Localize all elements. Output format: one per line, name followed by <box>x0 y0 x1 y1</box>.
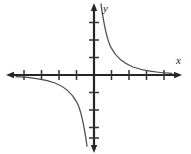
y-axis-label: y <box>102 2 108 14</box>
graph-figure: x y <box>0 0 191 154</box>
coordinate-plane-svg: x y <box>0 0 191 154</box>
x-axis-label: x <box>175 54 181 66</box>
hyperbola-branch-quadrant-3 <box>16 77 87 146</box>
hyperbola-branch-quadrant-1 <box>101 4 172 73</box>
